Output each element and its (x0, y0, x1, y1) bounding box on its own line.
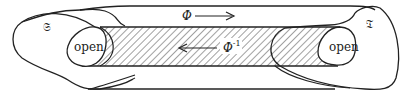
inverse-map-symbol: Φ (223, 41, 233, 55)
forward-arrow-icon (195, 12, 234, 20)
right-space-inner-edge (285, 13, 355, 28)
left-space-label: 𝔖 (43, 21, 51, 34)
right-space-label: 𝔗 (366, 18, 374, 31)
hatched-band (82, 27, 340, 66)
forward-map-label: Φ (182, 9, 192, 23)
inverse-map-exponent: -1 (233, 39, 241, 48)
left-space-top-edge (22, 9, 125, 26)
tube-top-edge (80, 6, 375, 10)
diagram-canvas: 𝔖 𝔗 open open Φ Φ-1 (0, 0, 404, 94)
right-open-label: open (329, 40, 359, 54)
left-open-label: open (74, 40, 104, 54)
